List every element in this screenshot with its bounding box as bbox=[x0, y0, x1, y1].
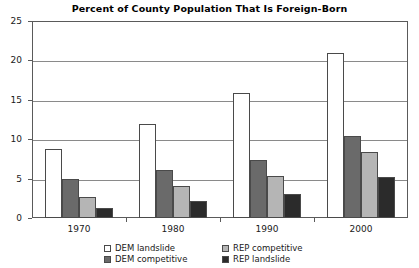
plot-area bbox=[32, 21, 408, 218]
y-tick-label: 25 bbox=[11, 16, 22, 26]
chart-legend: DEM landslideREP competitiveDEM competit… bbox=[104, 243, 334, 267]
y-tick-label: 5 bbox=[16, 174, 22, 184]
chart-figure: Percent of County Population That Is For… bbox=[0, 0, 419, 268]
x-tick-label: 1990 bbox=[256, 224, 279, 234]
legend-entry-rep-landslide[interactable]: REP landslide bbox=[222, 254, 290, 264]
x-tick-label: 2000 bbox=[350, 224, 373, 234]
y-tick-label: 10 bbox=[11, 134, 22, 144]
legend-entry-dem-landslide[interactable]: DEM landslide bbox=[104, 243, 175, 253]
y-tick-label: 0 bbox=[16, 213, 22, 223]
legend-label: DEM landslide bbox=[115, 243, 175, 253]
gridline bbox=[33, 101, 407, 102]
legend-label: REP competitive bbox=[233, 243, 303, 253]
gridline bbox=[33, 61, 407, 62]
legend-swatch-icon bbox=[222, 256, 229, 263]
x-tick-label: 1980 bbox=[162, 224, 185, 234]
legend-swatch-icon bbox=[104, 245, 111, 252]
y-tick-label: 15 bbox=[11, 95, 22, 105]
y-tick-label: 20 bbox=[11, 55, 22, 65]
x-tick-label: 1970 bbox=[68, 224, 91, 234]
legend-swatch-icon bbox=[104, 256, 111, 263]
gridline bbox=[33, 140, 407, 141]
legend-entry-rep-competitive[interactable]: REP competitive bbox=[222, 243, 303, 253]
gridline bbox=[33, 180, 407, 181]
legend-swatch-icon bbox=[222, 245, 229, 252]
legend-label: REP landslide bbox=[233, 254, 290, 264]
legend-entry-dem-competitive[interactable]: DEM competitive bbox=[104, 254, 187, 264]
x-tick-mark bbox=[126, 218, 127, 222]
x-tick-mark bbox=[220, 218, 221, 222]
legend-label: DEM competitive bbox=[115, 254, 187, 264]
y-axis: 0510152025 bbox=[0, 21, 27, 218]
x-tick-mark bbox=[314, 218, 315, 222]
chart-title: Percent of County Population That Is For… bbox=[0, 3, 419, 14]
x-axis: 1970198019902000 bbox=[32, 218, 408, 240]
